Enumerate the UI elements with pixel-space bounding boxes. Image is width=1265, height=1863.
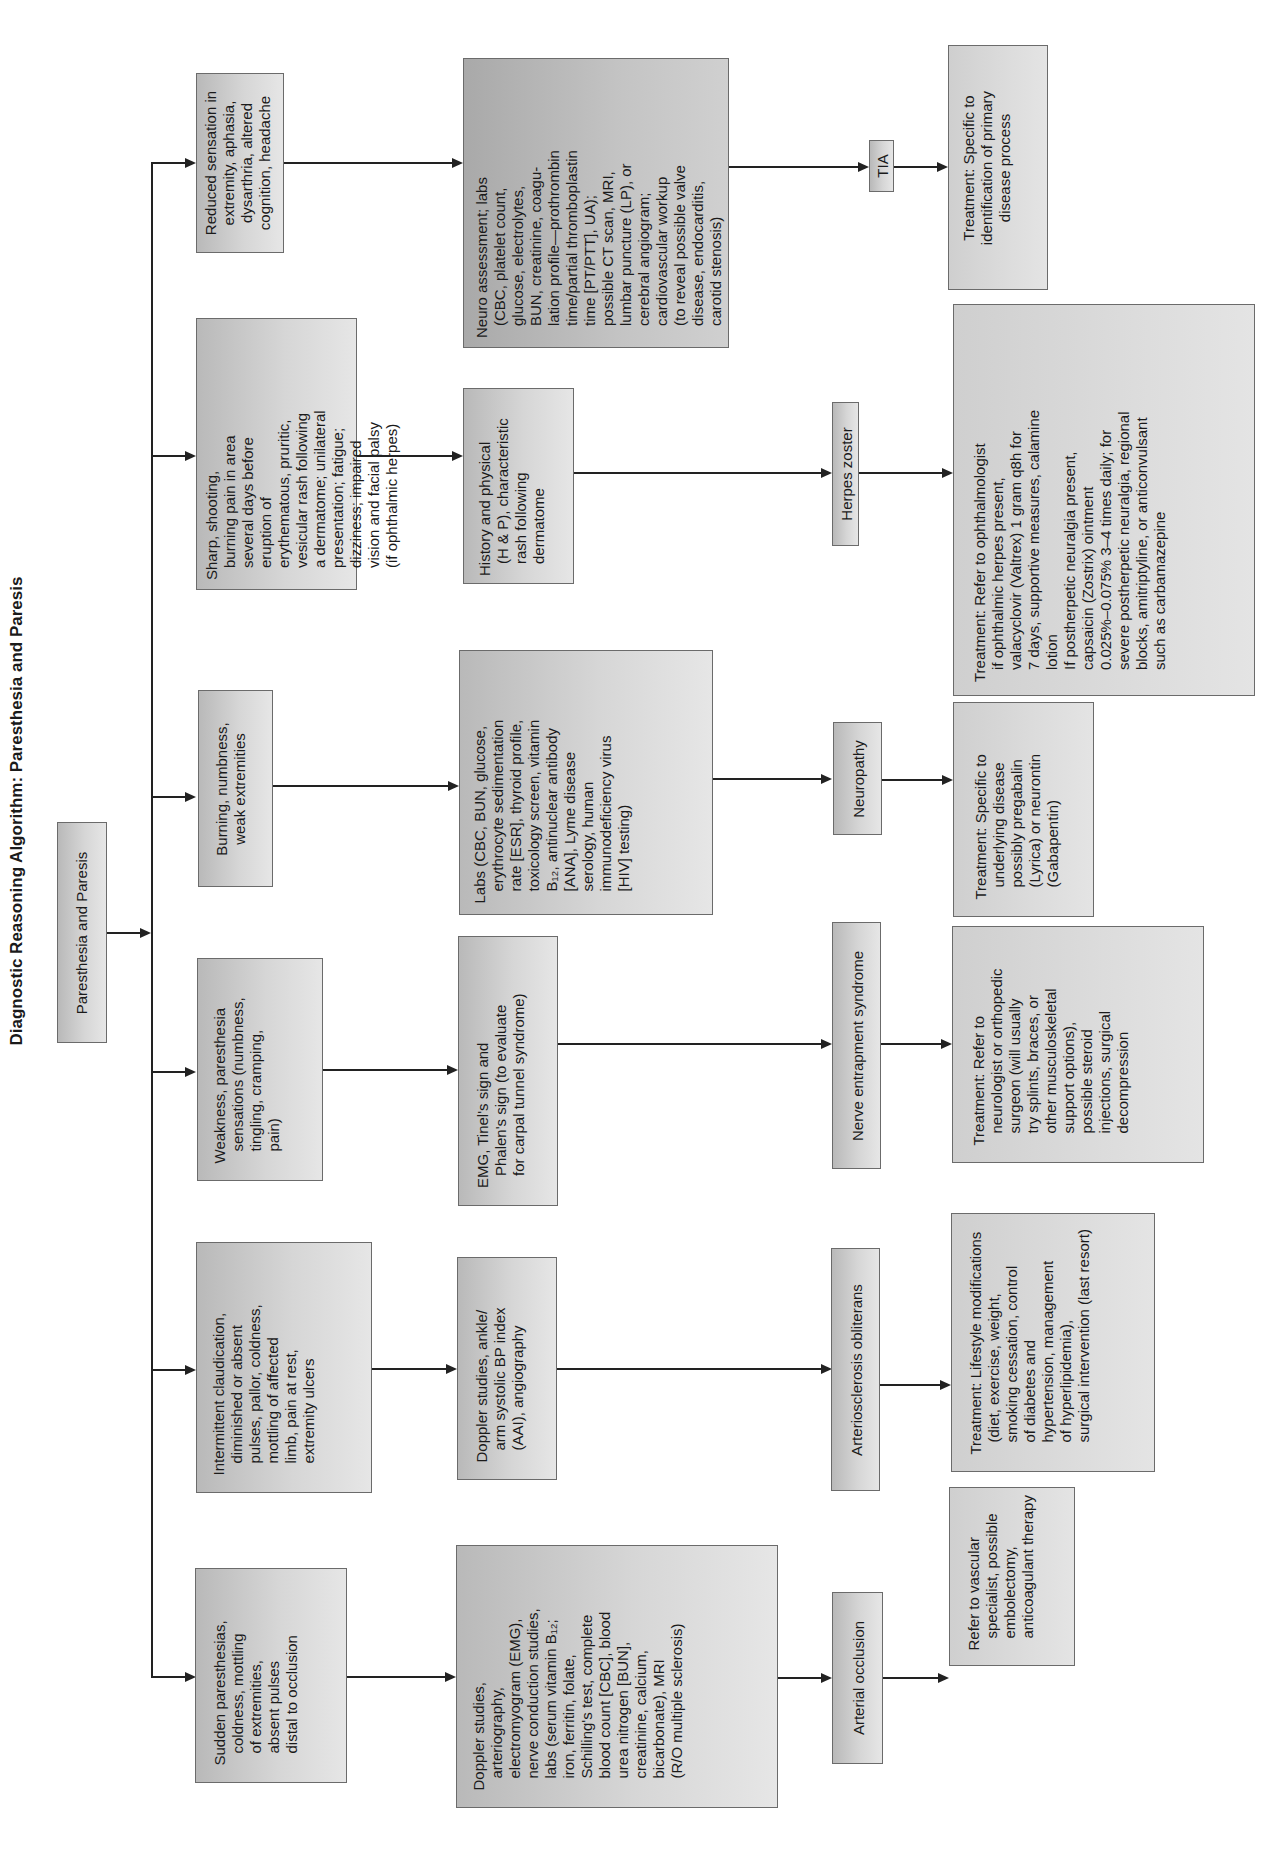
test-node: Neuro assessment; labs (CBC, platelet co… [463,58,729,348]
treatment-node: Treatment: Lifestyle modifications (diet… [951,1213,1155,1472]
treatment-text: Refer to vascular specialist, possible e… [949,1487,1075,1666]
connector [729,166,859,168]
test-text: Doppler studies, arteriography, electrom… [456,1545,778,1808]
diagnosis-text: TIA [869,140,894,192]
arrow-icon [448,781,459,791]
connector [881,1043,941,1045]
symptom-text: Burning, numbness, weak extremities [198,690,273,887]
diagnosis-text: Herpes zoster [832,402,859,546]
treatment-text: Treatment: Specific to identification of… [948,45,1048,290]
symptom-text: Intermittent claudication, diminished or… [196,1242,372,1493]
arrow-icon [821,1039,832,1049]
treatment-node: Treatment: Refer to ophthalmologist if o… [953,304,1255,696]
arrow-icon [858,162,869,172]
arrow-icon [821,1673,832,1683]
treatment-node: Treatment: Refer to neurologist or ortho… [952,926,1204,1163]
treatment-node: Refer to vascular specialist, possible e… [949,1487,1075,1666]
symptom-node: Sharp, shooting, burning pain in area se… [196,318,357,590]
diagnosis-node: Herpes zoster [832,402,859,546]
symptom-text: Sudden paresthesias, coldness, mottling … [195,1568,347,1783]
connector [357,455,452,457]
symptom-node: Intermittent claudication, diminished or… [196,1242,372,1493]
treatment-text: Treatment: Lifestyle modifications (diet… [951,1213,1155,1472]
connector [574,472,821,474]
diagnosis-text: Nerve entrapment syndrome [832,922,881,1169]
arrow-icon [941,1039,952,1049]
connector [882,779,942,781]
connector [778,1677,821,1679]
test-text: History and physical (H & P), characteri… [463,388,574,584]
arrow-icon [446,1364,457,1374]
diagnosis-text: Arteriosclerosis obliterans [831,1248,880,1491]
diagnosis-node: Arterial occlusion [832,1592,883,1764]
arrow-icon [445,1672,456,1682]
diagram-title-text: Diagnostic Reasoning Algorithm: Paresthe… [6,300,32,1045]
symptom-text: Reduced sensation in extremity, aphasia,… [196,73,284,253]
diagnosis-node: Neuropathy [833,722,882,835]
treatment-node: Treatment: Specific to underlying diseas… [953,702,1094,917]
test-text: Neuro assessment; labs (CBC, platelet co… [463,58,729,348]
connector [284,162,452,164]
symptom-node: Weakness, paresthesia sensations (numbne… [197,958,323,1181]
connector [152,1369,186,1371]
symptom-text: Weakness, paresthesia sensations (numbne… [197,958,323,1181]
arrow-icon [185,451,196,461]
test-node: Labs (CBC, BUN, glucose, erythrocyte sed… [459,650,713,915]
diagnosis-node: TIA [869,140,894,192]
root-node: Paresthesia and Paresis [57,822,107,1043]
arrow-icon [452,451,463,461]
connector [152,162,186,164]
diagnosis-node: Nerve entrapment syndrome [832,922,881,1169]
root-connector [107,932,141,934]
treatment-text: Treatment: Refer to ophthalmologist if o… [953,304,1255,696]
test-node: History and physical (H & P), characteri… [463,388,574,584]
connector [372,1368,446,1370]
connector [558,1043,822,1045]
arrow-icon [452,158,463,168]
arrow-icon [185,1067,196,1077]
connector [557,1368,821,1370]
arrow-icon [140,928,151,938]
arrow-icon [942,468,953,478]
connector [152,1676,186,1678]
arrow-icon [940,1380,951,1390]
trunk-line [151,162,153,1678]
treatment-text: Treatment: Specific to underlying diseas… [953,702,1094,917]
treatment-node: Treatment: Specific to identification of… [948,45,1048,290]
test-text: Doppler studies, ankle/ arm systolic BP … [457,1257,557,1480]
treatment-text: Treatment: Refer to neurologist or ortho… [952,926,1204,1163]
arrow-icon [185,1365,196,1375]
symptom-node: Sudden paresthesias, coldness, mottling … [195,1568,347,1783]
arrow-icon [937,162,948,172]
symptom-node: Burning, numbness, weak extremities [198,690,273,887]
arrow-icon [185,792,196,802]
symptom-text: Sharp, shooting, burning pain in area se… [196,318,357,590]
arrow-icon [942,775,953,785]
connector [152,1071,186,1073]
test-node: EMG, Tinel's sign and Phalen's sign (to … [458,936,558,1206]
arrow-icon [821,774,832,784]
diagnosis-node: Arteriosclerosis obliterans [831,1248,880,1491]
arrow-icon [938,1673,949,1683]
test-text: Labs (CBC, BUN, glucose, erythrocyte sed… [459,650,713,915]
diagram-title: Diagnostic Reasoning Algorithm: Paresthe… [6,300,32,1045]
arrow-icon [447,1065,458,1075]
arrow-icon [185,158,196,168]
test-text: EMG, Tinel's sign and Phalen's sign (to … [458,936,558,1206]
connector [880,1384,940,1386]
connector [152,455,186,457]
diagnosis-text: Neuropathy [833,722,882,835]
test-node: Doppler studies, arteriography, electrom… [456,1545,778,1808]
symptom-node: Reduced sensation in extremity, aphasia,… [196,73,284,253]
diagnosis-text: Arterial occlusion [832,1592,883,1764]
test-node: Doppler studies, ankle/ arm systolic BP … [457,1257,557,1480]
root-node-label: Paresthesia and Paresis [57,822,107,1043]
connector [859,472,942,474]
connector [883,1677,938,1679]
connector [347,1676,445,1678]
connector [713,778,821,780]
connector [152,796,186,798]
connector [894,166,938,168]
arrow-icon [821,468,832,478]
connector [273,785,448,787]
